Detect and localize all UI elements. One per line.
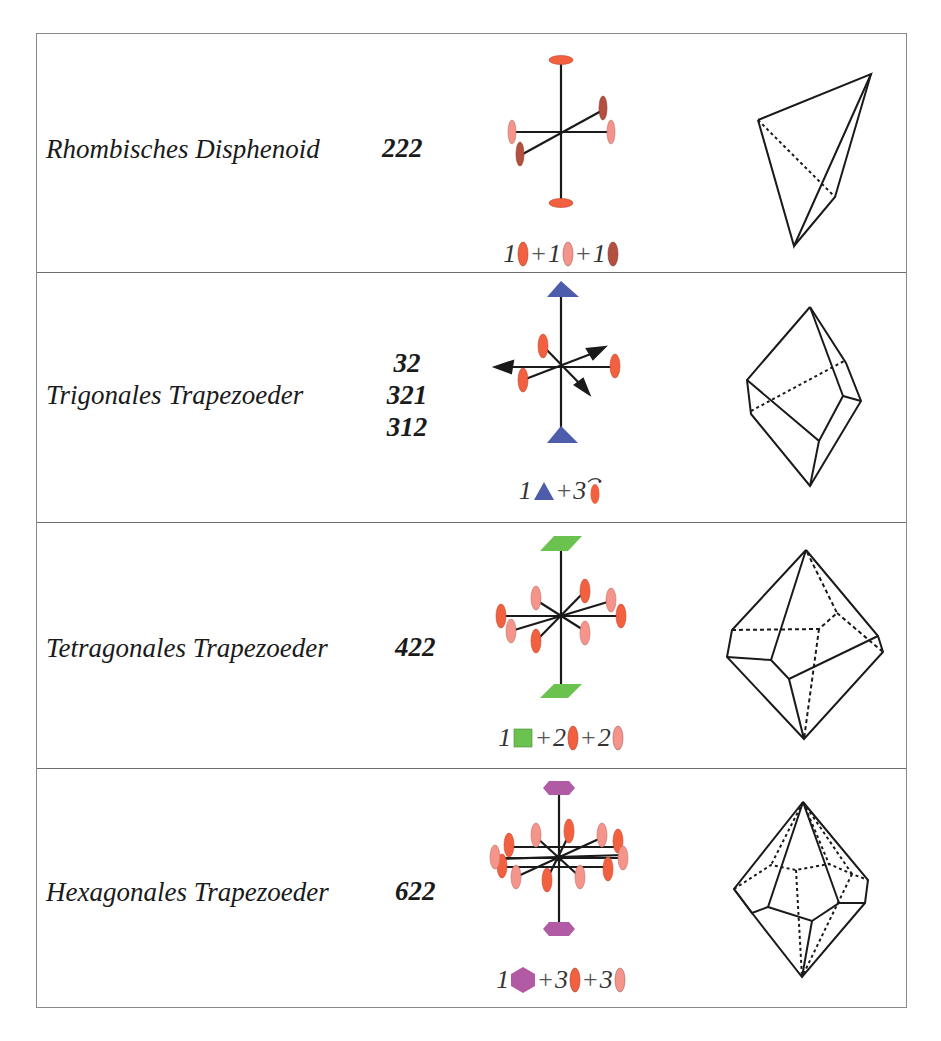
twofold-axis-icon <box>511 865 521 889</box>
twofold-axis-icon <box>506 619 516 643</box>
symmetry-formula: 1 + 3 <box>461 476 661 506</box>
twofold-axis-icon <box>607 241 619 267</box>
trigonal-trapezohedron-crystal-drawing <box>701 273 941 518</box>
twofold-axis-icon <box>607 120 615 144</box>
twofold-axis-icon <box>616 604 626 628</box>
sixfold-axis-icon <box>543 781 575 795</box>
twofold-axis-rotation-icon <box>587 476 603 506</box>
sixfold-axis-icon <box>510 966 536 994</box>
twofold-axis-icon <box>567 725 579 751</box>
form-name: Trigonales Trapezoeder <box>46 380 303 411</box>
hexagonal-trapezohedron-crystal-drawing <box>701 769 941 1014</box>
crystal-class-table: Rhombisches Disphenoid 222 1 + 1 + 1 <box>36 33 907 1008</box>
twofold-axis-icon <box>597 823 607 847</box>
twofold-axis-icon <box>610 354 620 378</box>
twofold-axis-icon <box>618 846 628 870</box>
twofold-axis-icon <box>538 334 548 358</box>
row-hexagonal-trapezohedron: Hexagonales Trapezoeder 622 <box>37 769 906 1009</box>
symmetry-formula: 1 + 2 + 2 <box>461 723 661 753</box>
twofold-axis-icon <box>562 241 574 267</box>
twofold-axis-icon <box>516 142 524 166</box>
fourfold-axis-icon <box>512 727 534 749</box>
point-group-symbol: 32 <box>387 346 427 380</box>
threefold-axis-icon <box>533 480 555 502</box>
form-name: Rhombisches Disphenoid <box>46 134 320 165</box>
twofold-axis-icon <box>518 368 528 392</box>
form-name: Hexagonales Trapezoeder <box>46 877 329 908</box>
symmetry-formula: 1 + 1 + 1 <box>461 239 661 269</box>
point-group-symbol: 622 <box>395 874 436 908</box>
twofold-axis-icon <box>603 857 613 881</box>
point-group-symbol: 222 <box>382 131 423 165</box>
twofold-axis-icon <box>542 868 552 892</box>
sixfold-axis-icon <box>543 922 575 936</box>
point-group-symbol: 321 <box>382 378 432 412</box>
form-name: Tetragonales Trapezoeder <box>46 633 328 664</box>
twofold-axis-icon <box>517 241 529 267</box>
twofold-axis-icon <box>531 823 541 847</box>
twofold-axis-icon <box>580 579 590 603</box>
twofold-axis-icon <box>490 845 500 869</box>
twofold-axis-icon <box>549 56 573 65</box>
twofold-axis-icon <box>612 725 624 751</box>
twofold-axis-icon <box>531 586 541 610</box>
twofold-axis-icon <box>504 833 514 857</box>
row-rhombic-disphenoid: Rhombisches Disphenoid 222 1 + 1 + 1 <box>37 34 906 273</box>
twofold-axis-icon <box>580 621 590 645</box>
twofold-axis-icon <box>569 967 581 993</box>
twofold-axis-icon <box>575 865 585 889</box>
threefold-axis-icon <box>547 426 578 443</box>
twofold-axis-icon <box>614 967 626 993</box>
disphenoid-crystal-drawing <box>701 34 941 279</box>
fourfold-axis-icon <box>540 684 582 698</box>
twofold-axis-icon <box>549 199 573 208</box>
threefold-axis-icon <box>547 281 579 297</box>
twofold-axis-icon <box>599 96 607 120</box>
symmetry-formula: 1 + 3 + 3 <box>461 965 661 995</box>
twofold-axis-icon <box>496 604 506 628</box>
point-group-symbol: 422 <box>395 630 436 664</box>
fourfold-axis-icon <box>540 536 582 551</box>
twofold-axis-icon <box>531 629 541 653</box>
point-group-symbol: 312 <box>382 410 432 444</box>
twofold-axis-icon <box>606 588 616 612</box>
tetragonal-trapezohedron-crystal-drawing <box>701 523 941 768</box>
row-tetragonal-trapezohedron: Tetragonales Trapezoeder 422 1 + <box>37 523 906 769</box>
twofold-axis-icon <box>564 819 574 843</box>
twofold-axis-icon <box>508 120 516 144</box>
row-trigonal-trapezohedron: Trigonales Trapezoeder 32 321 312 1 + <box>37 273 906 523</box>
